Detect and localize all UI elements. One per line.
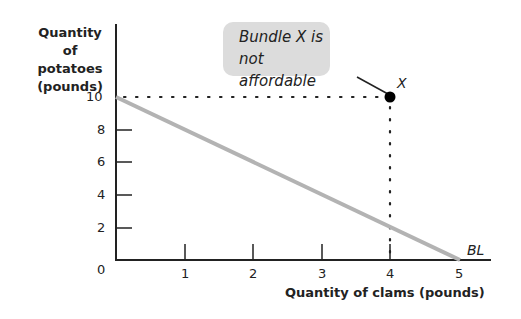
y-tick-label-2: 2 [97,220,105,235]
budget-line [116,97,460,260]
x-tick-label-2: 2 [249,266,257,281]
y-ticks [116,130,132,228]
callout-box: Bundle X is not affordable [223,22,330,76]
point-x [385,92,396,103]
x-tick-label-5: 5 [455,266,463,281]
y-axis-title-line: Quantity [30,24,110,42]
callout-line: not affordable [239,48,330,92]
x-ticks [185,244,390,260]
x-tick-label-4: 4 [386,266,394,281]
budget-line-label: BL [467,242,484,258]
y-tick-label-10: 10 [86,89,103,104]
x-axis-title: Quantity of clams (pounds) [285,285,485,300]
x-tick-label-3: 3 [318,266,326,281]
point-x-label: X [397,75,407,91]
y-axis-title-line: of potatoes [30,42,110,78]
y-tick-label-4: 4 [97,187,105,202]
y-tick-label-8: 8 [97,122,105,137]
y-axis-title: Quantity of potatoes (pounds) [30,24,110,96]
y-tick-label-6: 6 [97,154,105,169]
origin-label: 0 [97,262,105,277]
x-tick-label-1: 1 [181,266,189,281]
callout-leader [357,77,388,94]
callout-line: Bundle X is [239,26,330,48]
